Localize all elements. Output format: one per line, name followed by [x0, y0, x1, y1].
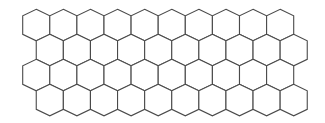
hex-cell [63, 84, 90, 116]
hex-grid-diagram [0, 0, 325, 123]
hex-cell [172, 84, 199, 116]
hex-cell [36, 84, 63, 116]
hex-cell [280, 84, 307, 116]
hex-cell [118, 84, 145, 116]
hex-cell [145, 84, 172, 116]
hex-cell [90, 84, 117, 116]
hex-grid-canvas [0, 0, 325, 123]
hex-cell [199, 84, 226, 116]
hex-cell [226, 84, 253, 116]
hex-cell [253, 84, 280, 116]
